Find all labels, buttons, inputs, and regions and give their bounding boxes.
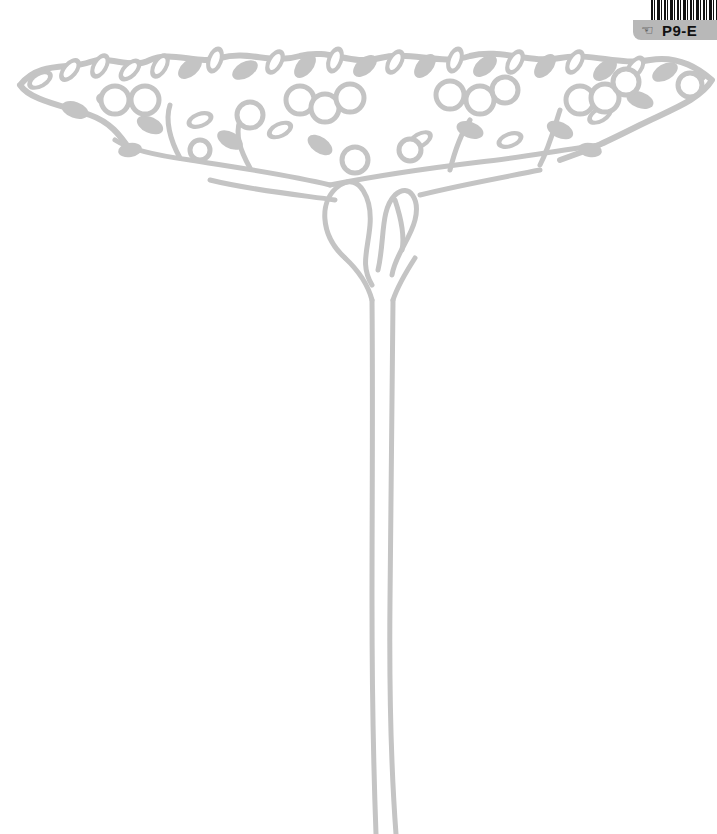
hand-pointer-icon: ☜ bbox=[641, 23, 654, 37]
barcode bbox=[651, 0, 717, 20]
call-number-tag: ☜ P9-E bbox=[633, 20, 717, 40]
trunk bbox=[345, 258, 415, 834]
library-barcode-label: ☜ P9-E bbox=[633, 0, 717, 42]
tree-illustration bbox=[0, 0, 717, 834]
branches bbox=[115, 105, 600, 285]
call-number-text: P9-E bbox=[662, 22, 697, 39]
